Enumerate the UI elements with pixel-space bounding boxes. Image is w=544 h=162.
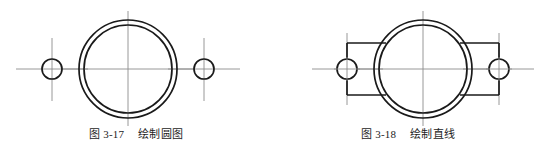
figure-3-18-caption: 图 3-18绘制直线 [272,126,544,142]
figure-page: 图 3-17绘制圆图 [0,0,544,162]
figure-3-17-caption-label: 图 3-17 [89,128,124,140]
figure-3-18: 图 3-18绘制直线 [272,0,544,162]
drawing-3-17 [0,0,272,126]
figure-3-17-caption-title: 绘制圆图 [138,128,183,140]
figure-3-17: 图 3-17绘制圆图 [0,0,272,162]
figure-3-18-caption-title: 绘制直线 [410,128,455,140]
drawing-3-18 [272,0,544,126]
figure-3-17-caption: 图 3-17绘制圆图 [0,126,272,142]
figure-3-18-caption-label: 图 3-18 [361,128,396,140]
centerlines-group-left [16,11,240,126]
